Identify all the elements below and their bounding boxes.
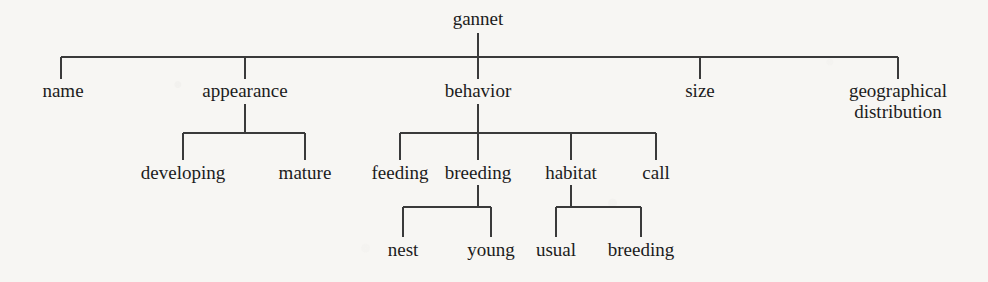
tree-node-name: name bbox=[42, 80, 83, 101]
tree-node-appearance: appearance bbox=[202, 80, 287, 101]
semantic-tree-diagram: gannetnameappearancebehaviorsizegeograph… bbox=[0, 0, 988, 282]
tree-node-breeding: breeding bbox=[608, 239, 674, 260]
tree-node-nest: nest bbox=[388, 239, 419, 260]
tree-node-breeding: breeding bbox=[445, 162, 511, 183]
tree-node-size: size bbox=[685, 80, 715, 101]
tree-node-behavior: behavior bbox=[445, 80, 511, 101]
tree-root-gannet: gannet bbox=[453, 8, 504, 29]
tree-node-geographical-distribution: geographical distribution bbox=[828, 80, 968, 123]
tree-node-young: young bbox=[467, 239, 515, 260]
tree-node-feeding: feeding bbox=[372, 162, 429, 183]
tree-node-habitat: habitat bbox=[545, 162, 597, 183]
tree-node-usual: usual bbox=[536, 239, 576, 260]
tree-node-developing: developing bbox=[141, 162, 225, 183]
tree-node-mature: mature bbox=[279, 162, 332, 183]
tree-node-call: call bbox=[642, 162, 669, 183]
